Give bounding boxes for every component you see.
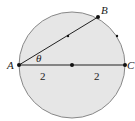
label-a: A [6, 59, 14, 71]
point-a-dot [17, 63, 21, 67]
point-b-dot [96, 15, 100, 19]
arc-mark-dot [116, 35, 118, 37]
center-dot [70, 63, 74, 67]
angle-theta-label: θ [36, 52, 42, 64]
label-b: B [101, 4, 108, 16]
label-c: C [127, 59, 135, 71]
segment-label-right: 2 [94, 70, 100, 82]
circle-diagram: A B C θ 2 2 [0, 0, 135, 121]
midpoint-ab-dot [67, 35, 69, 37]
segment-label-left: 2 [40, 70, 46, 82]
